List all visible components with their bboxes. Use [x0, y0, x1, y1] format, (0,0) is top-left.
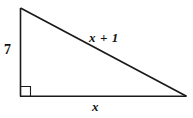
right-angle-marker-icon: [21, 87, 31, 97]
vertical-leg-label: 7: [4, 43, 11, 57]
geometry-figure: 7 x + 1 x: [0, 0, 193, 118]
hypotenuse-label: x + 1: [89, 31, 119, 44]
hypotenuse-line: [21, 8, 187, 96]
horizontal-leg-label: x: [92, 100, 99, 113]
